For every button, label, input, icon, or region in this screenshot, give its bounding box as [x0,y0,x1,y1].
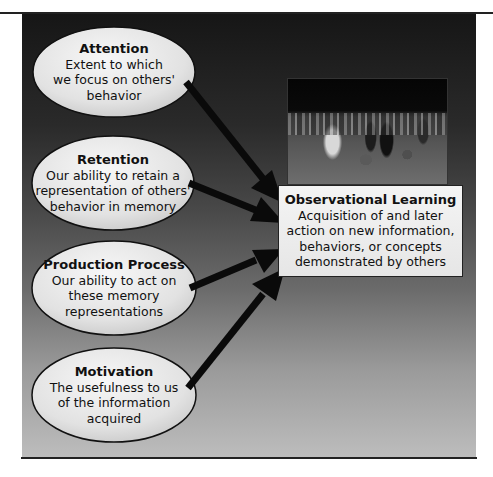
result-line-3: behaviors, or concepts [299,239,441,255]
motivation-line-1: The usefulness to us [50,380,179,396]
production-line-3: representations [65,304,163,320]
observational-learning-box: Observational Learning Acquisition of an… [278,185,463,277]
result-title: Observational Learning [285,192,457,208]
motivation-line-3: acquired [87,411,141,427]
retention-label: Retention Our ability to retain a repres… [32,136,194,230]
motivation-label: Motivation The usefulness to us of the i… [32,348,196,442]
attention-line-1: Extent to which [65,57,163,73]
result-line-1: Acquisition of and later [298,208,443,224]
retention-title: Retention [77,152,149,168]
attention-line-2: we focus on others' [53,72,175,88]
attention-label: Attention Extent to which we focus on ot… [33,27,195,117]
result-line-4: demonstrated by others [295,254,446,270]
attention-line-3: behavior [87,88,142,104]
retention-line-2: representation of others' [36,183,191,199]
motivation-title: Motivation [75,364,154,380]
retention-line-3: behavior in memory [50,199,176,215]
attention-title: Attention [79,41,148,57]
production-title: Production Process [43,257,184,273]
production-line-1: Our ability to act on [52,273,177,289]
children-playing-photo [287,78,448,185]
retention-line-1: Our ability to retain a [46,168,180,184]
production-label: Production Process Our ability to act on… [32,241,196,335]
motivation-line-2: of the information [58,395,171,411]
photo-crowd [288,113,447,135]
result-line-2: action on new information, [287,223,455,239]
production-line-2: these memory [69,288,160,304]
